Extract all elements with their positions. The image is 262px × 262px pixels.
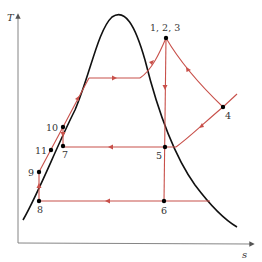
arrow-boiling — [112, 76, 117, 81]
label-8: 8 — [37, 204, 43, 215]
arrow-5-to-7 — [108, 145, 113, 150]
label-7: 7 — [62, 149, 68, 160]
arrow-123-to-4 — [186, 67, 191, 72]
line-10-to-sat-liquid — [63, 78, 89, 127]
point-6 — [162, 199, 166, 203]
label-1-2-3: 1, 2, 3 — [150, 22, 180, 33]
label-5: 5 — [156, 150, 162, 161]
point-11 — [49, 148, 53, 152]
line-123-to-4 — [166, 38, 223, 107]
point-8 — [37, 199, 41, 203]
line-4-to-5 — [176, 107, 223, 147]
process-lines — [39, 38, 237, 201]
point-1-2-3 — [164, 36, 168, 40]
arrow-123-to-6 — [163, 85, 168, 90]
line-4-ext — [223, 94, 237, 107]
direction-arrows — [37, 60, 205, 204]
point-4 — [221, 105, 225, 109]
point-5 — [163, 145, 167, 149]
arrow-7-to-10 — [61, 132, 66, 137]
point-7 — [61, 144, 65, 148]
point-9 — [37, 170, 41, 174]
label-4: 4 — [225, 110, 231, 121]
s-axis-label: s — [242, 249, 247, 260]
label-10: 10 — [46, 122, 58, 133]
t-s-diagram: T s — [0, 0, 262, 262]
state-points — [37, 36, 225, 203]
arrow-6-to-8 — [105, 199, 110, 204]
label-6: 6 — [161, 205, 167, 216]
point-labels: 1, 2, 3 4 5 6 7 8 9 10 11 — [28, 22, 231, 216]
label-9: 9 — [28, 167, 34, 178]
t-axis-label: T — [7, 12, 15, 23]
saturation-dome — [23, 15, 237, 227]
label-11: 11 — [35, 145, 47, 156]
s-axis — [18, 243, 252, 244]
line-123-to-6 — [164, 38, 166, 201]
point-10 — [61, 125, 65, 129]
